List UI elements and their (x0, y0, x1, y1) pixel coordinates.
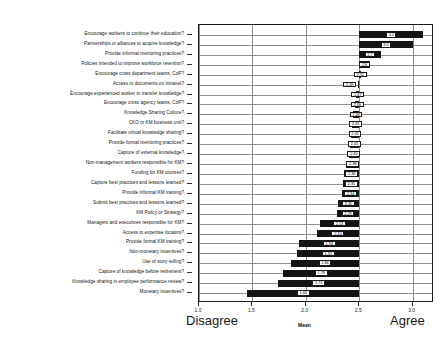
category-tick (187, 54, 192, 55)
x-axis-tick (305, 302, 306, 306)
bar-value-label: 2.40 (347, 151, 360, 157)
bar-value-label: 3.1 (386, 32, 396, 38)
gridline-horizontal (199, 164, 432, 165)
anchor-label-disagree: Disagree (186, 313, 238, 328)
category-tick (187, 282, 192, 283)
bar-value-label: 2.46 (351, 102, 364, 108)
bar-value-label: 2.29 (342, 211, 355, 217)
category-tick (187, 203, 192, 204)
category-tick (187, 292, 192, 293)
gridline-horizontal (199, 194, 432, 195)
category-label: Monetary incentives? (140, 289, 184, 294)
category-label: Partnerships or alliances to acquire kno… (84, 41, 184, 46)
x-axis-tick-label: 2.0 (295, 307, 315, 313)
category-tick (187, 153, 192, 154)
bar (358, 81, 360, 88)
category-label: Knowledge sharing in employee performanc… (72, 279, 184, 284)
category-tick (187, 242, 192, 243)
category-tick (187, 44, 192, 45)
category-label: Use of story-telling? (142, 259, 184, 264)
bar-value-label: 3.0 (381, 42, 391, 48)
category-tick (187, 193, 192, 194)
category-tick (187, 272, 192, 273)
category-axis: Encourage workers to continue their educ… (0, 24, 192, 302)
category-label: Capture of external knowledge? (118, 150, 184, 155)
bar-value-label: 1.92 (322, 251, 335, 257)
gridline-horizontal (199, 134, 432, 135)
gridline-horizontal (199, 144, 432, 145)
gridline-horizontal (199, 174, 432, 175)
category-tick (187, 183, 192, 184)
bar-value-label: 2.30 (342, 201, 355, 207)
category-label: CKO or KM business unit? (129, 120, 184, 125)
gridline-vertical (199, 25, 200, 301)
category-tick (187, 34, 192, 35)
category-label: Encourage cross agency teams, CoP? (104, 100, 184, 105)
category-tick (187, 262, 192, 263)
gridline-horizontal (199, 154, 432, 155)
category-label: Access to documents on Intranet? (113, 81, 184, 86)
gridline-horizontal (199, 55, 432, 56)
category-label: Facilitate virtual knowledge sharing? (108, 130, 184, 135)
category-tick (187, 163, 192, 164)
bar-value-label: 2.10 (331, 231, 344, 237)
category-tick (187, 84, 192, 85)
category-label: Capture of knowledge before retirement? (99, 269, 184, 274)
category-tick (187, 173, 192, 174)
category-label: Non-monetary incentives? (129, 249, 184, 254)
bar-value-label: 2.43 (349, 121, 362, 127)
gridline-horizontal (199, 75, 432, 76)
bar-value-label: 2.42 (349, 131, 362, 137)
category-tick (187, 64, 192, 65)
category-tick (187, 143, 192, 144)
category-tick (187, 223, 192, 224)
gridline-horizontal (199, 184, 432, 185)
bar-value-label: 2.49 (343, 82, 356, 88)
category-label: Managers and executives responsible for … (87, 220, 184, 225)
bar-value-label: 2.41 (348, 141, 361, 147)
bar-value-label: 2.44 (350, 112, 363, 118)
category-label: Access to expertise locators? (123, 230, 184, 235)
category-label: Provide informal mentoring practices? (105, 51, 184, 56)
gridline-horizontal (199, 124, 432, 125)
category-label: Capture best practices and lessons learn… (91, 180, 184, 185)
category-label: KM Policy or Strategy? (136, 210, 184, 215)
bar-value-label: 2.7 (365, 52, 375, 58)
horizontal-bar-chart: Encourage workers to continue their educ… (0, 0, 443, 345)
gridline-horizontal (199, 95, 432, 96)
category-label: Provide formal mentoring practices? (109, 140, 184, 145)
category-tick (187, 94, 192, 95)
plot-area: 3.13.02.72.62.522.492.472.462.442.432.42… (198, 24, 433, 302)
gridline-horizontal (199, 234, 432, 235)
bar-value-label: 1.74 (312, 280, 325, 286)
bar-value-label: 2.36 (345, 171, 358, 177)
x-axis-tick (198, 302, 199, 306)
gridline-vertical (413, 25, 414, 301)
bar-value-label: 2.13 (333, 221, 346, 227)
category-label: Submit best practices and lessons learne… (93, 200, 184, 205)
bar-value-label: 2.38 (346, 161, 359, 167)
x-axis-tick-label: 2.5 (348, 307, 368, 313)
category-tick (187, 213, 192, 214)
gridline-horizontal (199, 65, 432, 66)
anchor-label-agree: Agree (390, 313, 425, 328)
category-label: Funding for KM courses? (132, 170, 184, 175)
bar-value-label: 1.94 (323, 241, 336, 247)
x-axis-title: Mean (298, 322, 311, 328)
gridline-vertical (252, 25, 253, 301)
category-tick (187, 123, 192, 124)
bar-value-label: 1.79 (315, 270, 328, 276)
gridline-horizontal (199, 85, 432, 86)
category-tick (187, 74, 192, 75)
category-label: Non-management workers responsible for K… (86, 160, 184, 165)
bar-value-label: 2.34 (344, 191, 357, 197)
gridline-horizontal (199, 224, 432, 225)
category-label: Encourage cross department teams, CoP? (95, 71, 184, 76)
category-tick (187, 103, 192, 104)
category-label: Encourage experienced worker to transfer… (70, 91, 184, 96)
bar-value-label: 2.35 (345, 181, 358, 187)
category-label: Knowledge Sharing Culture? (124, 110, 184, 115)
bar-value-label: 1.45 (297, 290, 310, 296)
category-label: Encourage workers to continue their educ… (84, 31, 184, 36)
bar-value-label: 1.86 (319, 260, 332, 266)
